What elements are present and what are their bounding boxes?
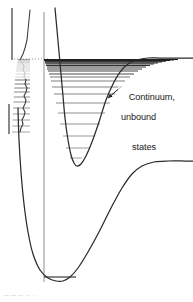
- bottom-caption-fragment: — — — – · ·: [4, 293, 37, 299]
- continuum-unbound-states-label: Continuum, unbound states: [119, 83, 175, 172]
- diffuse-label-backdrop: [10, 60, 43, 79]
- figure-container: Continuum, unbound states — — — – · ·: [0, 0, 193, 302]
- continuum-label-line-1: Continuum,: [129, 92, 175, 102]
- continuum-label-line-3: states: [119, 143, 175, 153]
- continuum-label-line-2: unbound: [119, 113, 175, 123]
